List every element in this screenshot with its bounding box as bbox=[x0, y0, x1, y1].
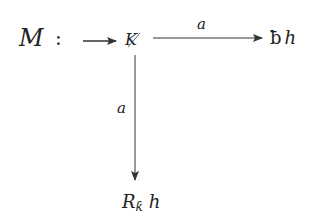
node-right-glyph: ƀ bbox=[270, 27, 282, 48]
colon: : bbox=[55, 28, 62, 48]
node-bottom: Rƙh bbox=[122, 193, 160, 213]
edge-down-label: a bbox=[117, 101, 126, 116]
node-origin: K bbox=[125, 32, 137, 48]
node-bottom-var: h bbox=[149, 191, 161, 212]
node-right-var: h bbox=[285, 27, 297, 48]
node-right: ƀh bbox=[270, 29, 296, 47]
machine-label: M bbox=[19, 26, 44, 50]
node-bottom-R: R bbox=[122, 191, 136, 212]
node-bottom-sub: ƙ bbox=[136, 200, 143, 214]
edge-right-label: a bbox=[197, 17, 206, 32]
